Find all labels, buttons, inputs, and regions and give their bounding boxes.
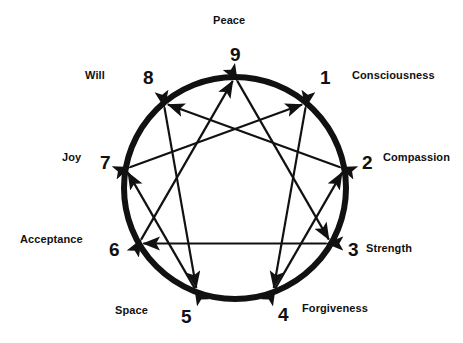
point-number-4: 4 bbox=[278, 305, 289, 324]
point-word-9: Peace bbox=[213, 15, 245, 26]
point-word-3: Strength bbox=[366, 243, 412, 254]
point-number-7: 7 bbox=[100, 153, 111, 172]
connection-line-1-4 bbox=[274, 107, 306, 287]
point-number-8: 8 bbox=[143, 68, 154, 87]
point-word-2: Compassion bbox=[383, 152, 450, 163]
point-word-5: Space bbox=[115, 305, 148, 316]
point-word-6: Acceptance bbox=[20, 234, 83, 245]
connection-line-9-3 bbox=[237, 81, 329, 240]
point-number-3: 3 bbox=[348, 240, 359, 259]
enneagram-connection-lines bbox=[128, 81, 342, 289]
point-word-7: Joy bbox=[62, 152, 81, 163]
enneagram-diagram: 9Peace1Consciousness2Compassion3Strength… bbox=[0, 0, 463, 343]
point-number-2: 2 bbox=[362, 153, 373, 172]
connection-line-6-9 bbox=[141, 81, 233, 240]
enneagram-outer-circle bbox=[124, 77, 346, 299]
point-word-8: Will bbox=[85, 70, 105, 81]
point-word-4: Forgiveness bbox=[302, 303, 368, 314]
point-number-5: 5 bbox=[181, 307, 192, 326]
point-word-1: Consciousness bbox=[352, 70, 435, 81]
point-number-1: 1 bbox=[320, 68, 331, 87]
point-number-9: 9 bbox=[230, 45, 241, 64]
point-number-6: 6 bbox=[109, 240, 120, 259]
connection-line-8-5 bbox=[164, 107, 196, 287]
